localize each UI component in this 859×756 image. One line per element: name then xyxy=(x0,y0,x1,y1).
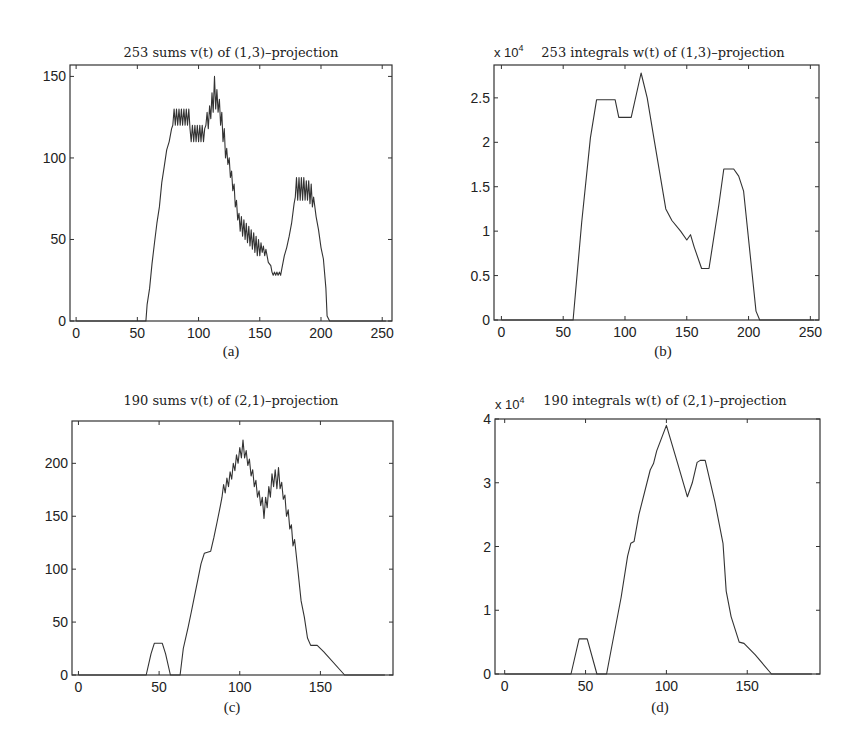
x-tick-label: 0 xyxy=(498,324,506,340)
panel-d-exponent: x 104 xyxy=(495,395,525,412)
x-tick-label: 100 xyxy=(187,325,211,341)
panel-c: 190 sums v(t) of (2,1)–projection (c) 05… xyxy=(45,393,393,716)
x-tick-label: 250 xyxy=(371,325,395,341)
y-tick-label: 2.5 xyxy=(471,90,491,106)
y-tick-label: 1.5 xyxy=(471,179,491,195)
y-tick-label: 4 xyxy=(483,411,491,427)
y-tick-label: 200 xyxy=(45,455,69,471)
y-tick-label: 3 xyxy=(483,475,491,491)
panel-d-ticks: 05010015001234 xyxy=(483,411,820,694)
y-tick-label: 50 xyxy=(52,614,68,630)
y-tick-label: 0 xyxy=(58,313,66,329)
panel-d-caption: (d) xyxy=(651,699,669,716)
x-tick-label: 0 xyxy=(72,325,80,341)
panel-d-curve xyxy=(505,425,812,674)
x-tick-label: 250 xyxy=(799,324,823,340)
x-tick-label: 50 xyxy=(555,324,571,340)
y-tick-label: 150 xyxy=(43,68,67,84)
panel-c-curve xyxy=(79,440,385,675)
x-tick-label: 100 xyxy=(228,679,252,695)
y-tick-label: 1 xyxy=(482,223,490,239)
panel-b: x 104 253 integrals w(t) of (1,3)–projec… xyxy=(471,43,823,360)
panel-b-curve xyxy=(501,73,814,320)
panel-a: 253 sums v(t) of (1,3)–projection (a) 05… xyxy=(43,45,394,360)
panel-a-axes-box xyxy=(70,65,392,321)
x-tick-label: 150 xyxy=(675,324,699,340)
panel-a-caption: (a) xyxy=(223,343,240,360)
y-tick-label: 0 xyxy=(483,666,491,682)
panel-b-exponent: x 104 xyxy=(494,43,524,60)
panel-b-axes-box xyxy=(494,65,819,320)
y-tick-label: 100 xyxy=(43,150,67,166)
x-tick-label: 50 xyxy=(151,679,167,695)
panel-a-title: 253 sums v(t) of (1,3)–projection xyxy=(123,45,339,60)
panel-c-ticks: 050100150050100150200 xyxy=(45,421,393,695)
y-tick-label: 150 xyxy=(45,508,69,524)
panel-a-curve xyxy=(76,76,386,321)
x-tick-label: 50 xyxy=(578,678,594,694)
panel-b-title: 253 integrals w(t) of (1,3)–projection xyxy=(541,45,785,60)
x-tick-label: 200 xyxy=(309,325,333,341)
x-tick-label: 150 xyxy=(309,679,333,695)
y-tick-label: 2 xyxy=(483,539,491,555)
x-tick-label: 150 xyxy=(248,325,272,341)
x-tick-label: 100 xyxy=(613,324,637,340)
panel-c-axes-box xyxy=(72,421,393,675)
x-tick-label: 50 xyxy=(130,325,146,341)
x-tick-label: 0 xyxy=(75,679,83,695)
x-tick-label: 150 xyxy=(736,678,760,694)
y-tick-label: 0 xyxy=(482,312,490,328)
x-tick-label: 0 xyxy=(501,678,509,694)
panel-b-ticks: 05010015020025000.511.522.5 xyxy=(471,65,823,340)
panel-d: x 104 190 integrals w(t) of (2,1)–projec… xyxy=(483,393,820,716)
x-tick-label: 100 xyxy=(655,678,679,694)
panel-c-caption: (c) xyxy=(224,699,241,716)
y-tick-label: 100 xyxy=(45,561,69,577)
panel-b-caption: (b) xyxy=(654,343,672,360)
y-tick-label: 1 xyxy=(483,602,491,618)
panel-d-title: 190 integrals w(t) of (2,1)–projection xyxy=(543,393,787,408)
figure: 253 sums v(t) of (1,3)–projection (a) 05… xyxy=(0,0,859,756)
y-tick-label: 0 xyxy=(60,667,68,683)
x-tick-label: 200 xyxy=(737,324,761,340)
y-tick-label: 2 xyxy=(482,134,490,150)
y-tick-label: 50 xyxy=(50,231,66,247)
y-tick-label: 0.5 xyxy=(471,268,491,284)
panel-c-title: 190 sums v(t) of (2,1)–projection xyxy=(123,393,339,408)
panel-d-axes-box xyxy=(495,419,820,674)
